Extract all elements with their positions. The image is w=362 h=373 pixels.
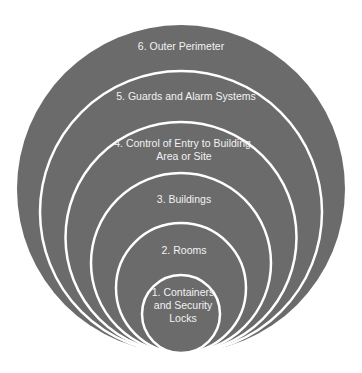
layer-2-label: 2. Rooms (162, 244, 207, 257)
layer-3-label: 3. Buildings (157, 193, 211, 206)
layer-5-label: 5. Guards and Alarm Systems (116, 90, 255, 103)
layer-4-label: 4. Control of Entry to Building,Area or … (114, 137, 254, 163)
layer-1-label: 1. Containersand SecurityLocks (152, 286, 214, 325)
layer-6-label: 6. Outer Perimeter (138, 40, 224, 53)
